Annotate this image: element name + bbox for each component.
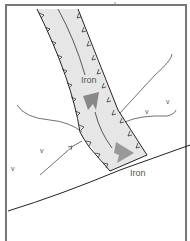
iron-label-lower: Iron: [130, 169, 146, 178]
fiber-right-lower: [125, 110, 176, 122]
fiber-arrowhead-left: [68, 146, 72, 150]
fiber-left-lower: [40, 141, 82, 175]
marker-v-4: v: [11, 165, 15, 172]
marker-v-3: v: [40, 147, 44, 154]
diagram-canvas: Iron Iron v v v v: [0, 0, 190, 241]
fiber-right-upper: [120, 54, 172, 113]
vessel-diagram: [0, 0, 190, 241]
fiber-left-upper: [17, 105, 82, 132]
vessel-body: [37, 9, 147, 171]
marker-v-2: v: [166, 98, 170, 105]
iron-label-upper: Iron: [81, 76, 97, 85]
marker-v-1: v: [145, 108, 149, 115]
